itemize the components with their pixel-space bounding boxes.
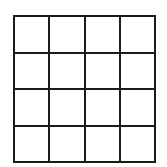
grid-cell xyxy=(86,54,119,89)
worksheet-canvas xyxy=(0,0,167,167)
grid-cell xyxy=(121,54,154,89)
grid-cell xyxy=(50,127,83,162)
grid-cell xyxy=(121,90,154,125)
grid-cell xyxy=(50,17,83,52)
grid-cell xyxy=(15,54,48,89)
grid-cell xyxy=(50,90,83,125)
four-by-four-grid xyxy=(13,15,156,163)
grid-cell xyxy=(121,127,154,162)
grid-cell xyxy=(15,90,48,125)
grid-cell xyxy=(15,127,48,162)
grid-cell xyxy=(86,90,119,125)
grid-cell xyxy=(121,17,154,52)
grid-cell xyxy=(15,17,48,52)
grid-cell xyxy=(50,54,83,89)
grid-cell xyxy=(86,17,119,52)
grid-cell xyxy=(86,127,119,162)
